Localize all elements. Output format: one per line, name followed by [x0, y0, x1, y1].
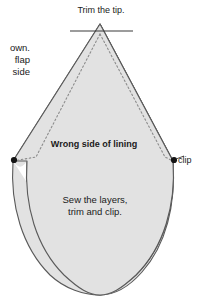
- label-wrong-side-of-lining: Wrong side of lining: [0, 139, 188, 150]
- pattern-piece-figure: [0, 0, 202, 308]
- clip-point-right-dot: [171, 157, 177, 163]
- label-trim-tip: Trim the tip.: [0, 5, 202, 16]
- label-clip: clip: [178, 155, 192, 166]
- label-sew-the-layers: Sew the layers, trim and clip.: [0, 194, 190, 218]
- diagram-canvas: Trim the tip. own. flap side Wrong side …: [0, 0, 202, 308]
- label-side-note: own. flap side: [0, 42, 30, 78]
- clip-point-left-dot: [11, 157, 17, 163]
